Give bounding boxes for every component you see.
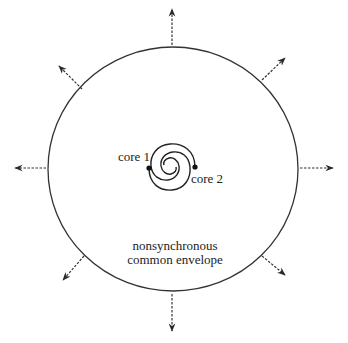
core-1-dot <box>146 165 151 170</box>
common-envelope-diagram <box>0 0 348 343</box>
envelope-label-line2: common envelope <box>120 253 230 267</box>
core-2-label: core 2 <box>191 172 223 186</box>
arrow-upper-right-icon <box>262 58 285 80</box>
envelope-label-line1: nonsynchronous <box>120 239 230 253</box>
arrow-lower-left-icon <box>63 256 84 280</box>
binary-spiral <box>149 144 195 190</box>
envelope-label: nonsynchronous common envelope <box>120 239 230 267</box>
core-1-label: core 1 <box>118 150 150 164</box>
arrow-upper-left-icon <box>59 66 82 89</box>
arrow-lower-right-icon <box>262 256 285 275</box>
core-2-dot <box>192 164 197 169</box>
outflow-arrows <box>15 9 333 331</box>
